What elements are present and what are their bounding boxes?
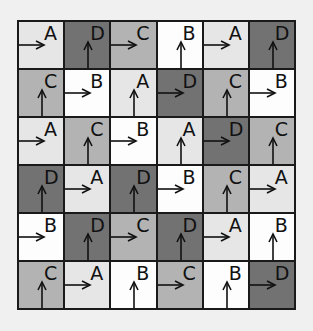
grid-cell: D [65,214,109,260]
up-arrow-icon [82,40,94,68]
right-arrow-icon [19,39,46,51]
cell-letter: C [44,70,57,92]
up-arrow-icon [221,280,233,308]
grid-cell: D [111,166,155,212]
cell-letter: A [229,214,242,236]
cell-letter: A [275,166,288,188]
cell-letter: D [44,166,59,188]
up-arrow-icon [267,136,279,164]
grid-cell: B [158,166,202,212]
right-arrow-icon [19,135,46,147]
up-arrow-icon [128,280,140,308]
cell-letter: B [275,70,288,92]
grid-cell: A [158,118,202,164]
grid-cell: D [250,262,294,308]
right-arrow-icon [250,87,277,99]
up-arrow-icon [82,232,94,260]
grid-cell: B [111,262,155,308]
grid-cell: D [158,214,202,260]
grid-cell: D [65,22,109,68]
grid-cell: C [204,166,248,212]
grid-cell: B [19,214,63,260]
right-arrow-icon [204,39,231,51]
up-arrow-icon [128,184,140,212]
cell-letter: D [90,22,105,44]
right-arrow-icon [19,231,46,243]
up-arrow-icon [36,280,48,308]
up-arrow-icon [82,136,94,164]
grid-cell: C [158,262,202,308]
grid-cell: B [158,22,202,68]
grid-cell: B [65,70,109,116]
cell-letter: A [90,166,103,188]
cell-letter: A [183,118,196,140]
grid-cell: A [19,22,63,68]
cell-letter: B [90,70,103,92]
cell-letter: D [136,166,151,188]
cell-letter: B [229,262,242,284]
grid-cell: B [250,214,294,260]
up-arrow-icon [36,184,48,212]
cell-letter: A [136,70,149,92]
right-arrow-icon [204,231,231,243]
right-arrow-icon [65,87,92,99]
cell-letter: A [44,118,57,140]
cell-letter: C [136,214,149,236]
right-arrow-icon [250,279,277,291]
cell-letter: C [229,166,242,188]
grid-cell: A [204,214,248,260]
right-arrow-icon [204,135,231,147]
grid-cell: A [65,166,109,212]
grid-cell: C [250,118,294,164]
cell-letter: B [136,118,149,140]
up-arrow-icon [267,232,279,260]
cell-letter: D [275,22,290,44]
grid-cell: C [65,118,109,164]
grid-cell: B [204,262,248,308]
up-arrow-icon [128,88,140,116]
cell-letter: A [229,22,242,44]
grid-cell: A [65,262,109,308]
cell-letter: B [183,22,196,44]
up-arrow-icon [221,184,233,212]
cell-letter: C [90,118,103,140]
cell-letter: B [136,262,149,284]
cell-letter: D [275,262,290,284]
grid-cell: C [19,70,63,116]
cell-letter: C [183,262,196,284]
up-arrow-icon [175,40,187,68]
cell-letter: D [229,118,244,140]
grid-cell: C [111,22,155,68]
grid-cell: B [250,70,294,116]
right-arrow-icon [158,87,185,99]
grid-cell: D [158,70,202,116]
right-arrow-icon [111,135,138,147]
cell-letter: B [275,214,288,236]
cell-letter: B [183,166,196,188]
cell-letter: D [90,214,105,236]
grid-cell: B [111,118,155,164]
grid-cell: C [19,262,63,308]
grid-cell: A [111,70,155,116]
cell-letter: A [90,262,103,284]
right-arrow-icon [158,183,185,195]
cell-letter: B [44,214,57,236]
up-arrow-icon [267,40,279,68]
up-arrow-icon [175,136,187,164]
cell-letter: C [275,118,288,140]
grid-cell: C [204,70,248,116]
right-arrow-icon [250,183,277,195]
up-arrow-icon [36,88,48,116]
cell-letter: D [183,214,198,236]
cell-letter: D [183,70,198,92]
cell-letter: A [44,22,57,44]
grid-cell: D [250,22,294,68]
cell-letter: C [136,22,149,44]
right-arrow-icon [111,231,138,243]
letter-grid-diagram: ADCBADCBADCBACBADCDADBCABDCDABCABCBD [17,20,296,310]
grid-cell: A [19,118,63,164]
right-arrow-icon [65,279,92,291]
cell-letter: C [44,262,57,284]
grid-cell: D [19,166,63,212]
grid-cell: A [204,22,248,68]
